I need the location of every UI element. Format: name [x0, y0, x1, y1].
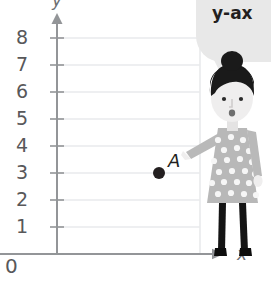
coordinate-plane-illustration: 8 7 6 5 4 3 2 1 0 y x A up t y-ax: [0, 0, 271, 284]
character-girl-pointing: [0, 0, 271, 284]
shoes: [214, 248, 252, 256]
legs: [218, 203, 248, 251]
